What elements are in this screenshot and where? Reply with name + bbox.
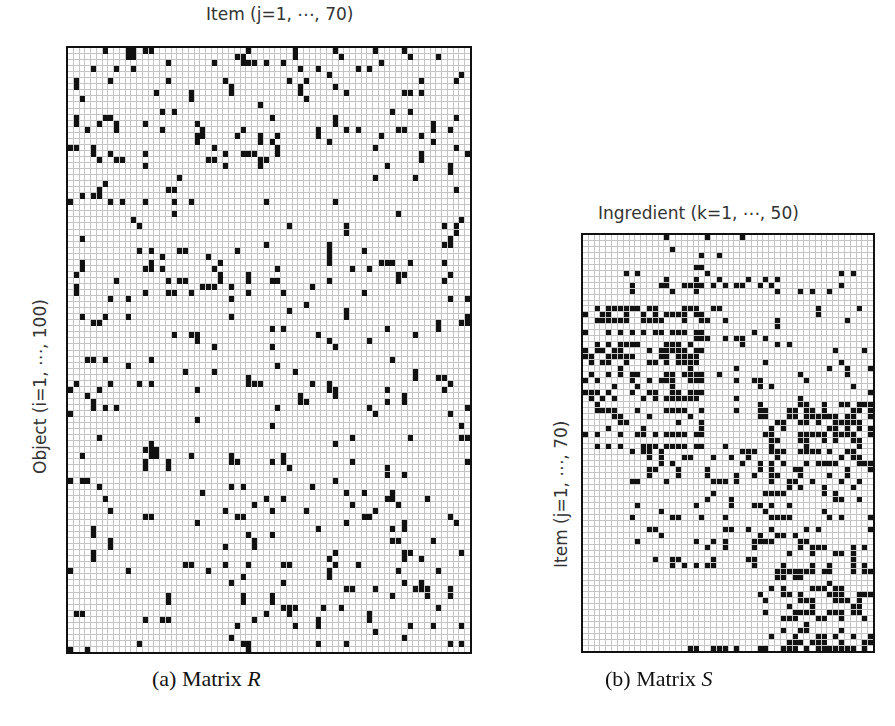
matrix-r-caption-prefix: (a) Matrix [152, 666, 247, 691]
matrix-s-grid [582, 234, 873, 651]
matrix-s-caption: (b) Matrix S [605, 666, 713, 692]
matrix-s-caption-symbol: S [702, 666, 713, 691]
matrix-r-caption-symbol: R [247, 666, 260, 691]
matrix-r-caption: (a) Matrix R [152, 666, 261, 692]
matrix-s-caption-prefix: (b) Matrix [605, 666, 702, 691]
matrix-r-x-axis-label: Item (j=1, ⋯, 70) [206, 4, 353, 24]
matrix-s-y-axis-label: Item (j=1, ⋯, 70) [551, 421, 571, 568]
matrix-s-x-axis-label: Ingredient (k=1, ⋯, 50) [598, 203, 799, 223]
matrix-r-grid [67, 47, 470, 652]
matrix-r-y-axis-label: Object (i=1, ⋯, 100) [30, 299, 50, 474]
